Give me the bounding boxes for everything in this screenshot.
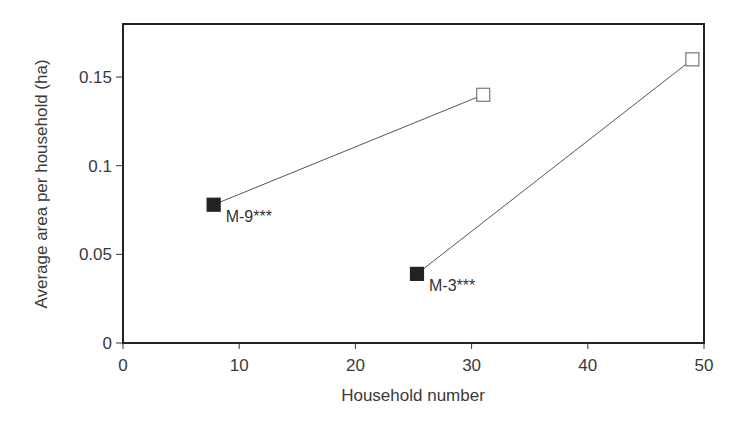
chart: 00.050.10.15 01020304050 M-9***M-3*** Ho…: [0, 0, 736, 428]
x-tick-label: 10: [230, 356, 249, 375]
plot-frame: [123, 24, 704, 343]
open-square-marker: [686, 53, 699, 66]
y-tick-label: 0.05: [79, 245, 112, 264]
filled-square-marker: [410, 267, 423, 280]
filled-square-marker: [207, 198, 220, 211]
y-axis-title: Average area per household (ha): [32, 59, 51, 308]
x-tick-label: 20: [346, 356, 365, 375]
y-axis: 00.050.10.15: [79, 68, 123, 353]
point-label: M-3***: [429, 277, 475, 294]
x-tick-label: 0: [118, 356, 127, 375]
point-label: M-9***: [226, 208, 272, 225]
x-tick-label: 30: [462, 356, 481, 375]
x-axis: 01020304050: [118, 343, 713, 375]
y-tick-label: 0: [103, 334, 112, 353]
y-tick-label: 0.15: [79, 68, 112, 87]
x-tick-label: 40: [578, 356, 597, 375]
y-tick-label: 0.1: [88, 157, 112, 176]
x-tick-label: 50: [695, 356, 714, 375]
open-square-marker: [477, 88, 490, 101]
x-axis-title: Household number: [341, 386, 485, 405]
